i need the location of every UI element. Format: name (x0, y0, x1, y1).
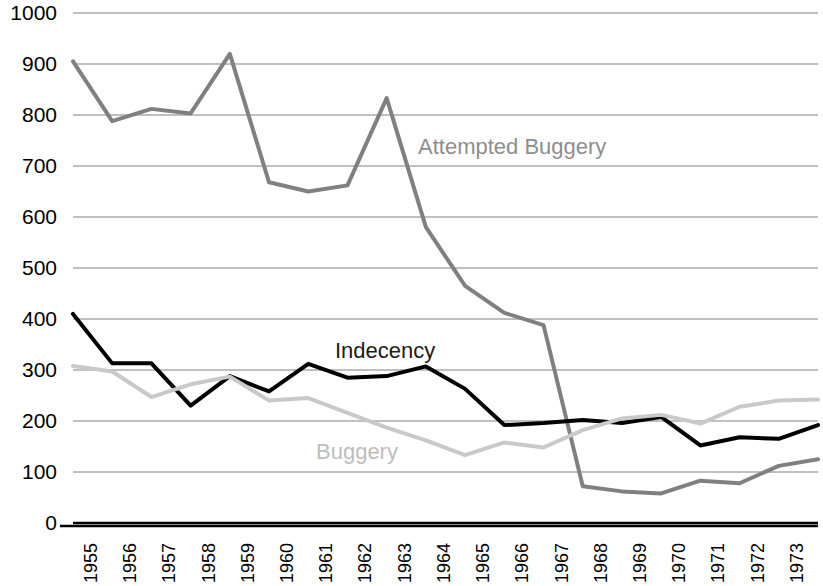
series-label-buggery: Buggery (316, 441, 398, 463)
x-tick-label: 1965 (474, 543, 492, 583)
axis-group (60, 523, 818, 526)
x-tick-label: 1973 (788, 543, 806, 583)
x-tick-label: 1959 (239, 543, 257, 583)
series-group (73, 54, 818, 494)
y-tick-label: 400 (22, 308, 57, 329)
series-line-indecency (73, 314, 818, 446)
x-tick-label: 1963 (396, 543, 414, 583)
x-tick-label: 1969 (631, 543, 649, 583)
y-tick-label: 600 (22, 206, 57, 227)
line-chart: 10009008007006005004003002001000 1955195… (0, 0, 823, 586)
x-tick-label: 1961 (317, 543, 335, 583)
chart-plot-area (0, 0, 823, 586)
x-tick-label: 1962 (356, 543, 374, 583)
x-tick-label: 1955 (82, 543, 100, 583)
y-tick-label: 0 (45, 512, 57, 533)
y-tick-label: 200 (22, 410, 57, 431)
x-tick-label: 1968 (592, 543, 610, 583)
y-tick-label: 900 (22, 53, 57, 74)
x-tick-label: 1967 (553, 543, 571, 583)
x-tick-label: 1972 (749, 543, 767, 583)
x-tick-label: 1960 (278, 543, 296, 583)
x-tick-label: 1956 (121, 543, 139, 583)
y-tick-label: 300 (22, 359, 57, 380)
x-tick-label: 1966 (513, 543, 531, 583)
y-tick-label: 800 (22, 104, 57, 125)
y-tick-label: 1000 (10, 2, 57, 23)
x-tick-label: 1970 (670, 543, 688, 583)
y-tick-label: 700 (22, 155, 57, 176)
x-tick-label: 1964 (435, 543, 453, 583)
series-label-indecency: Indecency (335, 340, 435, 362)
x-tick-label: 1971 (709, 543, 727, 583)
x-tick-label: 1957 (160, 543, 178, 583)
x-tick-label: 1958 (200, 543, 218, 583)
y-tick-label: 500 (22, 257, 57, 278)
y-tick-label: 100 (22, 461, 57, 482)
series-line-attempted-buggery (73, 54, 818, 494)
series-label-attempted-buggery: Attempted Buggery (418, 136, 606, 158)
